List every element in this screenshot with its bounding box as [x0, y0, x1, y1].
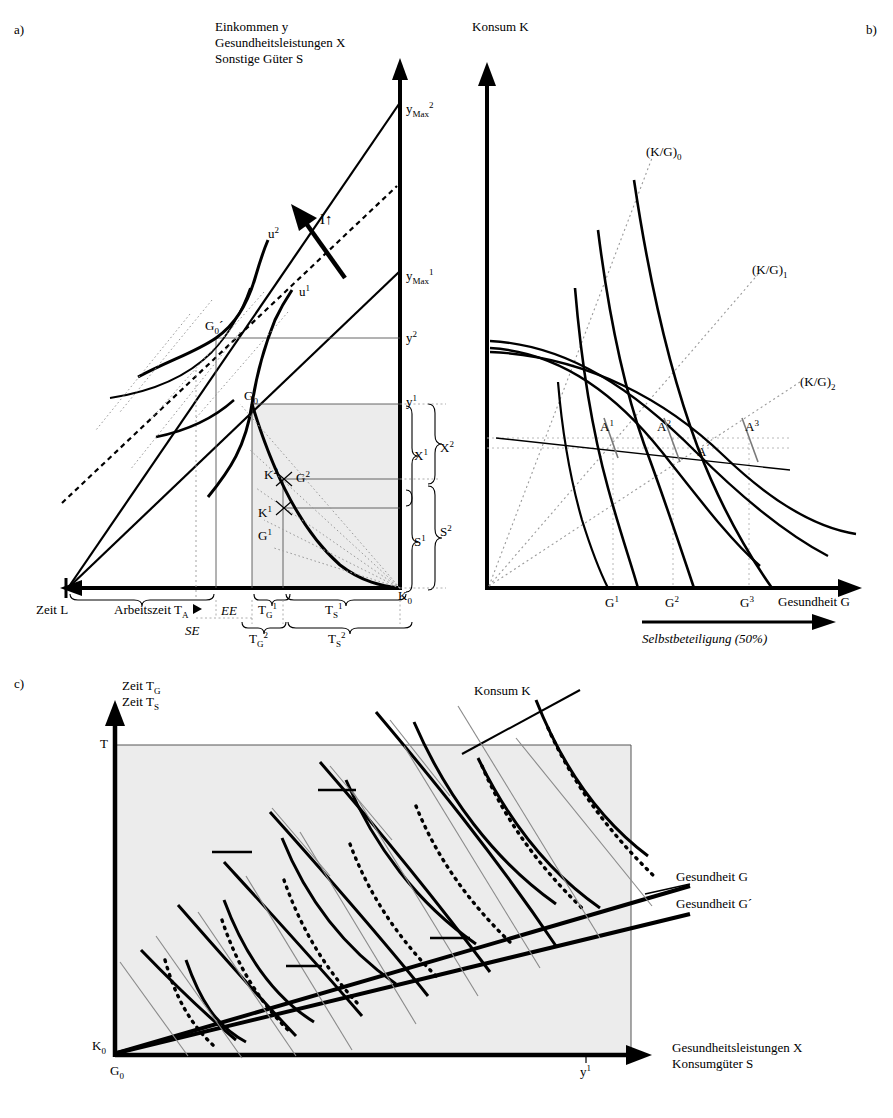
panel-a-tag: a) — [14, 22, 24, 37]
ck0-base: K — [92, 1038, 101, 1053]
kg1-base: (K/G) — [752, 262, 783, 277]
panel-b-xtick-g1: G1 — [605, 595, 619, 610]
panel-a-bracket-guides — [400, 404, 446, 588]
panel-c-y-axis-caption: Zeit TG Zeit TS — [122, 678, 242, 710]
g2-base: G — [296, 470, 305, 485]
panel-b-indifference-curve-0 — [558, 382, 608, 588]
tg2-sub: G — [257, 639, 264, 649]
panel-a-curve-label-u2: u2 — [268, 226, 279, 241]
panel-a-ytick-ymax2: yMax2 — [406, 101, 434, 116]
ytick-y1-sup: 1 — [413, 393, 418, 403]
ap-sup: ´ — [706, 443, 709, 453]
a2-sup: 2 — [666, 418, 671, 428]
panel-b-point-a3: A3 — [745, 419, 759, 434]
bx2-sup: 2 — [449, 439, 454, 449]
panel-a-caption-line-2: Gesundheitsleistungen X — [215, 35, 345, 50]
panel-b-indifference-curve-3 — [634, 180, 772, 588]
zts-base: Zeit T — [122, 694, 154, 709]
bg1-base: G — [605, 595, 614, 610]
panel-b-xtick-g3: G3 — [740, 595, 754, 610]
panel-a-point-k2: K2 — [264, 467, 278, 482]
panel-b-indifference-curve-2 — [598, 230, 694, 588]
arbeitszeit-sub: A — [182, 610, 189, 620]
panel-b-graphics — [478, 62, 862, 597]
panel-a-bracket-label-s2: S2 — [440, 524, 452, 539]
ts2-sub: S — [336, 639, 341, 649]
panel-a-bracket-label-x1: X1 — [414, 448, 428, 463]
arbeitszeit-base: Arbeitszeit T — [114, 602, 182, 617]
panel-a-se-marker — [193, 604, 202, 614]
panel-a-caption-line-1: Einkommen y — [215, 19, 288, 34]
panel-a-shift-arrow-shaft — [303, 219, 345, 278]
k2-base: K — [264, 467, 273, 482]
bx1-base: X — [414, 448, 423, 463]
k1-sup: 1 — [267, 504, 272, 514]
panel-c-origin-g0: G0 — [110, 1063, 124, 1078]
ts1-base: T — [325, 602, 333, 617]
ytick-ymax2-sup: 2 — [429, 100, 434, 110]
bx2-base: X — [440, 440, 449, 455]
panel-c-consumption-label: Konsum K — [474, 683, 531, 698]
g0-base: G — [244, 388, 253, 403]
a3-base: A — [745, 419, 754, 434]
a1-base: A — [600, 419, 609, 434]
panel-c-health-label-2: Gesundheit G´ — [676, 896, 752, 911]
panel-a-point-g0: G0 — [244, 388, 258, 403]
panel-c-x-axis-caption: Gesundheitsleistungen X Konsumgüter S — [672, 1040, 892, 1072]
bg2-base: G — [665, 595, 674, 610]
panel-a-secondary-curve-2 — [156, 400, 234, 437]
k2-sup: 2 — [273, 466, 278, 476]
panel-b-xtick-g2: G2 — [665, 595, 679, 610]
panel-a-y-axis-caption: Einkommen y Gesundheitsleistungen X Sons… — [215, 19, 405, 67]
panel-b-point-a2: A2 — [657, 419, 671, 434]
panel-a-graphics — [60, 58, 446, 634]
panel-b-ratio-label-0: (K/G)0 — [646, 144, 682, 159]
panel-c-origin-k0: K0 — [92, 1038, 106, 1053]
kg2-base: (K/G) — [800, 374, 831, 389]
panel-a-shift-arrow-head — [291, 204, 317, 231]
bg2-sup: 2 — [674, 594, 679, 604]
ytick-ymax1-sub: Max — [413, 276, 430, 286]
panel-b-x-axis-caption: Gesundheit G — [778, 594, 850, 609]
ck0-sub: 0 — [101, 1046, 106, 1056]
tg2-base: T — [249, 631, 257, 646]
u1-sup: 1 — [306, 283, 311, 293]
panel-b-construction-lines — [487, 438, 790, 588]
panel-a-ytick-y2: y2 — [406, 330, 417, 345]
cg0-sub: 0 — [119, 1071, 124, 1081]
panel-a-ytick-ymax1: yMax1 — [406, 268, 434, 283]
panel-a-brace-ts1 — [286, 594, 406, 606]
panel-b-y-axis-arrow — [478, 62, 496, 86]
panel-a-time-ts2: TS2 — [328, 631, 345, 646]
panel-b-point-a1: A1 — [600, 419, 614, 434]
panel-b-ratio-rays — [489, 158, 800, 586]
panel-a-bracket-label-s1: S1 — [414, 534, 426, 549]
panel-a-time-ts1: TS1 — [325, 602, 342, 617]
bg1-sup: 1 — [614, 594, 619, 604]
ts2-sup: 2 — [341, 630, 346, 640]
bs1-sup: 1 — [421, 533, 426, 543]
panel-a-caption-line-3: Sonstige Güter S — [215, 51, 303, 66]
panel-b-tangent-ticks — [604, 418, 758, 462]
panel-a-ytick-y1: y1 — [406, 394, 417, 409]
panel-c-tag: c) — [14, 676, 24, 691]
bg3-base: G — [740, 595, 749, 610]
panel-a-bracket-label-x2: X2 — [440, 440, 454, 455]
tg1-sub: G — [266, 610, 273, 620]
panel-a-point-k1: K1 — [258, 505, 272, 520]
ytick-ymax2-sub: Max — [413, 109, 430, 119]
panel-c-y-top-tick: T — [100, 736, 108, 751]
panel-a-brace-ts2 — [288, 622, 412, 634]
panel-a-time-tg2: TG2 — [249, 631, 268, 646]
panel-c-caption-ts: Zeit TS — [122, 694, 159, 709]
a2-base: A — [657, 419, 666, 434]
panel-a-x-axis-left-label: Zeit L — [36, 602, 68, 617]
panel-a-origin-k0: K0 — [398, 588, 412, 603]
panel-a-effect-se: SE — [185, 623, 199, 638]
panel-a-shaded-area — [252, 404, 400, 588]
u2-sup: 2 — [275, 225, 280, 235]
panel-c-health-label-1: Gesundheit G — [676, 869, 748, 884]
panel-c-shaded-area — [115, 745, 631, 1055]
ts2-base: T — [328, 631, 336, 646]
a1-sup: 1 — [609, 418, 614, 428]
